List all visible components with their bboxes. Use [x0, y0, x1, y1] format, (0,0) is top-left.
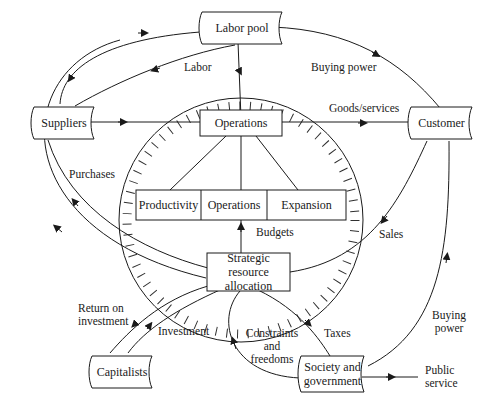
operations-mid-node: Operations [201, 190, 267, 220]
flow-label-constraints-freedoms: Constraints and freedoms [243, 327, 301, 366]
productivity-label: Productivity [139, 198, 198, 212]
public-line1: Public [425, 364, 458, 377]
flow-label-labor: Labor [184, 61, 211, 74]
expansion-label: Expansion [281, 198, 332, 212]
flow-label-return-on-investment: Return on investment [78, 302, 128, 328]
society-label-line1: Society and [304, 360, 360, 374]
flow-label-purchases: Purchases [69, 168, 115, 181]
society-label-line2: government [304, 374, 361, 388]
flow-label-budgets: Budgets [256, 226, 294, 239]
flow-label-investment: Investment [158, 325, 209, 338]
flow-label-public-service: Public service [425, 364, 458, 390]
customer-node: Customer [411, 107, 472, 139]
flow-label-sales: Sales [379, 228, 403, 241]
capitalists-node: Capitalists [92, 356, 152, 388]
strategic-allocation-node: Strategic resource allocation [207, 253, 290, 291]
operations-mid-label: Operations [208, 198, 261, 212]
buying-power-right-line1: Buying [428, 309, 470, 322]
return-line2: investment [78, 315, 128, 328]
buying-power-right-line2: power [428, 322, 470, 335]
customer-label: Customer [418, 116, 465, 130]
suppliers-label: Suppliers [41, 116, 86, 130]
strategic-label-line2: resource allocation [207, 265, 290, 293]
flow-label-goods-services: Goods/services [329, 102, 399, 115]
strategic-label-line1: Strategic [227, 251, 270, 265]
flow-label-taxes: Taxes [324, 327, 351, 340]
constraints-line3: freedoms [243, 353, 301, 366]
capitalists-label: Capitalists [97, 365, 148, 379]
operations-top-label: Operations [215, 116, 268, 130]
flow-label-buying-power-right: Buying power [428, 309, 470, 335]
expansion-node: Expansion [267, 190, 346, 220]
society-government-node: Society and government [301, 356, 364, 392]
labor-pool-label: Labor pool [216, 21, 269, 35]
labor-pool-node: Labor pool [202, 12, 282, 44]
constraints-line1: Constraints [243, 327, 301, 340]
return-line1: Return on [78, 302, 128, 315]
operations-top-node: Operations [200, 110, 282, 136]
productivity-node: Productivity [136, 190, 201, 220]
flow-label-buying-power-top: Buying power [311, 61, 376, 74]
constraints-line2: and [243, 340, 301, 353]
suppliers-node: Suppliers [34, 107, 94, 139]
public-line2: service [425, 377, 458, 390]
